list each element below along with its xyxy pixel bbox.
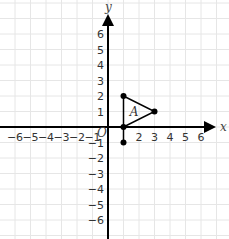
y-tick-label: 3 bbox=[97, 75, 104, 88]
point bbox=[152, 109, 158, 115]
y-tick-label: −5 bbox=[88, 199, 104, 212]
x-tick-label: 5 bbox=[182, 131, 189, 144]
y-tick-label: 1 bbox=[97, 106, 104, 119]
y-axis-label: y bbox=[104, 0, 112, 14]
x-tick-label: 3 bbox=[151, 131, 158, 144]
grid-lines bbox=[0, 0, 229, 239]
y-tick-label: −6 bbox=[88, 214, 104, 227]
y-tick-label: −4 bbox=[88, 183, 104, 196]
x-tick-label: −5 bbox=[22, 131, 38, 144]
y-tick-label: −2 bbox=[88, 152, 104, 165]
shape-label-a: A bbox=[129, 105, 139, 119]
y-tick-label: 6 bbox=[97, 28, 104, 41]
x-tick-label: 6 bbox=[198, 131, 205, 144]
x-tick-label: −2 bbox=[69, 131, 85, 144]
y-tick-label: 2 bbox=[97, 90, 104, 103]
y-tick-label: 5 bbox=[97, 44, 104, 57]
x-axis-arrow-icon bbox=[204, 121, 216, 133]
point bbox=[121, 93, 127, 99]
axes bbox=[0, 14, 216, 239]
x-tick-label: −3 bbox=[53, 131, 69, 144]
x-tick-label: 4 bbox=[167, 131, 174, 144]
origin-label: O bbox=[97, 126, 107, 140]
x-axis-label: x bbox=[220, 120, 227, 134]
y-tick-label: −3 bbox=[88, 168, 104, 181]
coordinate-plane: −6−5−4−3−2−123456654321−1−2−3−4−5−6 x y … bbox=[0, 0, 229, 239]
y-tick-label: 4 bbox=[97, 59, 104, 72]
point bbox=[121, 124, 127, 130]
x-tick-label: 2 bbox=[136, 131, 143, 144]
point bbox=[121, 140, 127, 146]
y-axis-arrow-icon bbox=[102, 14, 114, 26]
x-tick-label: −4 bbox=[38, 131, 54, 144]
x-tick-label: −6 bbox=[7, 131, 23, 144]
